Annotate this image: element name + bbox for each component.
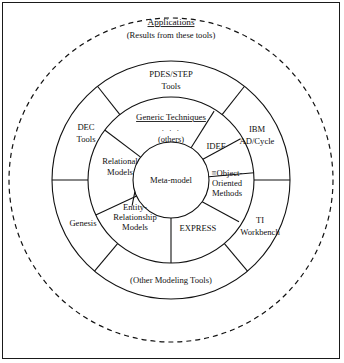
core-label-meta-model: Meta-model	[150, 175, 193, 185]
generic-techniques-ellipsis: · · ·	[162, 126, 181, 135]
applications-subtitle: (Results from these tools)	[127, 30, 216, 40]
middle-label-er-models-line1: Entity-	[123, 202, 147, 212]
middle-divider-express-oo	[202, 202, 239, 222]
outer-divider-ibm-pdes	[222, 87, 244, 115]
outer-label-ibm-line1: IBM	[249, 124, 266, 134]
outer-label-ti-workbench-line2: Workbench	[240, 227, 280, 237]
outer-divider-pdes-dec	[98, 87, 120, 115]
middle-label-idef: IDEF	[206, 141, 225, 151]
middle-label-others: (others)	[158, 135, 184, 144]
figure-root: Applications (Results from these tools) …	[0, 0, 344, 363]
applications-title: Applications	[148, 17, 195, 27]
outer-label-pdes-step-tools-line1: PDES/STEP	[149, 69, 193, 79]
middle-label-oo-methods-line3: Methods	[212, 188, 243, 198]
outer-divider-genesis-other	[95, 244, 118, 272]
outer-label-dec-tools-line2: Tools	[77, 134, 97, 144]
concentric-rings-diagram: Applications (Results from these tools) …	[0, 0, 344, 363]
middle-label-oo-methods-line1: ≡Object-	[212, 168, 243, 178]
outer-label-other-modeling-tools: (Other Modeling Tools)	[130, 275, 212, 285]
middle-label-generic-techniques: Generic Techniques	[136, 112, 206, 122]
middle-ring-labels: Generic Techniques · · · (others) IDEF ≡…	[102, 112, 242, 233]
middle-label-express: EXPRESS	[180, 223, 217, 233]
middle-label-relational-models-line2: Models	[107, 167, 133, 177]
outer-label-ti-line1: TI	[256, 215, 264, 225]
middle-label-er-models-line2: Relationship	[113, 212, 156, 222]
outer-label-pdes-step-tools-line2: Tools	[162, 81, 182, 91]
middle-label-relational-models-line1: Relational	[102, 156, 138, 166]
middle-label-er-models-line3: Models	[122, 222, 148, 232]
outer-divider-other-ti	[224, 244, 247, 272]
outer-label-dec-tools-line1: DEC	[77, 122, 94, 132]
outer-label-genesis: Genesis	[69, 218, 97, 228]
middle-label-oo-methods-line2: Oriented	[212, 178, 243, 188]
middle-divider-generic-relational	[105, 130, 141, 157]
outer-label-ibm-ad-cycle-line2: AD/Cycle	[240, 136, 275, 146]
